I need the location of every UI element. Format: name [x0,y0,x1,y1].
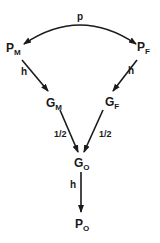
edge-label-pm-gm: h [21,67,27,77]
node-pm: PM [6,42,21,54]
node-gm-main: G [46,96,55,110]
node-gf: GF [105,96,119,108]
node-po-main: P [75,217,83,231]
edge-label-gf-go: 1/2 [99,130,112,139]
node-go: GO [74,157,90,169]
node-pm-sub: M [14,48,21,57]
node-pm-main: P [6,41,14,55]
edge-label-gm-go: 1/2 [54,130,67,139]
edge-label-p: p [77,12,83,22]
node-pf-main: P [137,40,145,54]
node-gf-sub: F [114,102,119,111]
edge-pm-pf-arc [24,25,136,44]
node-pf: PF [137,41,150,53]
node-po: PO [75,218,89,230]
path-diagram-arrows [0,0,160,243]
node-po-sub: O [83,224,89,233]
node-pf-sub: F [145,47,150,56]
node-gm: GM [46,97,62,109]
node-go-main: G [74,156,83,170]
node-go-sub: O [83,163,89,172]
node-gf-main: G [105,95,114,109]
edge-label-pf-gf: h [128,66,134,76]
edge-label-go-po: h [70,180,76,190]
node-gm-sub: M [55,103,62,112]
